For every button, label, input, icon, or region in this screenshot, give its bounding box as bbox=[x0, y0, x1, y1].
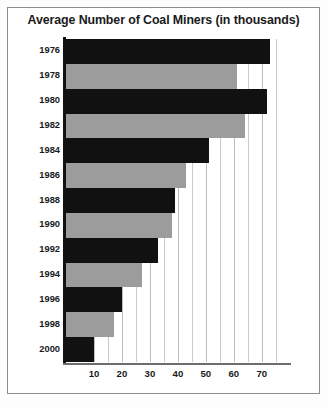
x-tick-label-10: 10 bbox=[79, 368, 109, 379]
plot-area bbox=[66, 39, 287, 362]
y-tick-label-1988: 1988 bbox=[4, 195, 60, 205]
y-tick-label-1990: 1990 bbox=[4, 219, 60, 229]
y-tick-label-1984: 1984 bbox=[4, 145, 60, 155]
bar-1996 bbox=[66, 287, 122, 312]
bar-row bbox=[66, 89, 287, 114]
x-tick-label-40: 40 bbox=[163, 368, 193, 379]
bar-row bbox=[66, 138, 287, 163]
bar-row bbox=[66, 188, 287, 213]
y-axis-line bbox=[63, 37, 66, 364]
bar-row bbox=[66, 263, 287, 288]
chart-figure: Average Number of Coal Miners (in thousa… bbox=[0, 0, 328, 408]
x-tick-label-30: 30 bbox=[135, 368, 165, 379]
bar-1984 bbox=[66, 138, 209, 163]
bar-1986 bbox=[66, 163, 186, 188]
bar-row bbox=[66, 238, 287, 263]
x-tick-label-70: 70 bbox=[247, 368, 277, 379]
bar-row bbox=[66, 39, 287, 64]
y-tick-label-1992: 1992 bbox=[4, 244, 60, 254]
bar-row bbox=[66, 114, 287, 139]
bar-row bbox=[66, 213, 287, 238]
bar-row bbox=[66, 287, 287, 312]
x-tick-label-60: 60 bbox=[219, 368, 249, 379]
bar-row bbox=[66, 64, 287, 89]
y-tick-label-1994: 1994 bbox=[4, 269, 60, 279]
y-tick-label-1998: 1998 bbox=[4, 319, 60, 329]
bar-1980 bbox=[66, 89, 267, 114]
bar-1976 bbox=[66, 39, 270, 64]
chart-title: Average Number of Coal Miners (in thousa… bbox=[7, 13, 320, 27]
y-axis-tick-labels: 1976197819801982198419861988199019921994… bbox=[0, 39, 60, 362]
bar-row bbox=[66, 337, 287, 362]
x-axis-line bbox=[63, 363, 291, 365]
bar-2000 bbox=[66, 337, 94, 362]
bar-1978 bbox=[66, 64, 237, 89]
bar-1994 bbox=[66, 263, 142, 288]
bar-1992 bbox=[66, 238, 158, 263]
bar-1988 bbox=[66, 188, 175, 213]
x-tick-label-20: 20 bbox=[107, 368, 137, 379]
bar-1982 bbox=[66, 114, 245, 139]
y-tick-label-1980: 1980 bbox=[4, 95, 60, 105]
y-tick-label-1982: 1982 bbox=[4, 120, 60, 130]
y-tick-label-2000: 2000 bbox=[4, 344, 60, 354]
y-tick-label-1996: 1996 bbox=[4, 294, 60, 304]
bar-row bbox=[66, 312, 287, 337]
bar-1998 bbox=[66, 312, 114, 337]
y-tick-label-1978: 1978 bbox=[4, 70, 60, 80]
x-tick-label-50: 50 bbox=[191, 368, 221, 379]
bar-1990 bbox=[66, 213, 172, 238]
x-axis-tick-labels: 10203040506070 bbox=[0, 368, 328, 384]
bar-series bbox=[66, 39, 287, 362]
y-tick-label-1986: 1986 bbox=[4, 170, 60, 180]
y-tick-label-1976: 1976 bbox=[4, 45, 60, 55]
bar-row bbox=[66, 163, 287, 188]
